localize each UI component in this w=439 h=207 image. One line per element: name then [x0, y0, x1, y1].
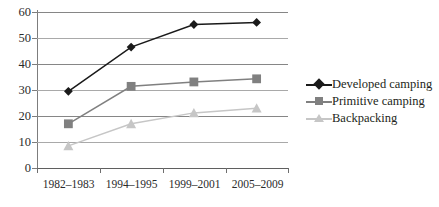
- diamond-marker-icon: [189, 20, 198, 29]
- line-chart: 60 50 40 30 20 10 0 1982–1983 1994–1995 …: [0, 0, 439, 207]
- x-axis-tick: [288, 168, 289, 173]
- triangle-marker-icon: [63, 141, 73, 150]
- y-tick-label: 50: [1, 32, 31, 45]
- series-line: [68, 108, 256, 146]
- y-tick-label: 40: [1, 58, 31, 71]
- square-marker-icon: [64, 119, 73, 128]
- legend-item-developed-camping: Developed camping: [306, 76, 439, 93]
- y-axis-labels: 60 50 40 30 20 10 0: [0, 0, 31, 207]
- square-marker-icon: [189, 78, 198, 87]
- x-axis-tick: [37, 168, 38, 173]
- x-tick-label: 1994–1995: [100, 178, 163, 190]
- square-marker-icon: [252, 74, 261, 83]
- legend-label: Primitive camping: [332, 95, 425, 108]
- legend-item-backpacking: Backpacking: [306, 110, 439, 127]
- square-marker-icon: [127, 82, 136, 91]
- square-marker-icon: [315, 97, 323, 105]
- series-plot: [37, 12, 288, 168]
- x-tick-label: 1982–1983: [37, 178, 100, 190]
- legend-label: Developed camping: [332, 78, 432, 91]
- x-tick-label: 2005–2009: [226, 178, 289, 190]
- series-primitive-camping: [64, 74, 261, 128]
- y-tick-label: 60: [1, 6, 31, 19]
- legend-key-backpacking: [306, 110, 332, 127]
- y-tick-label: 0: [1, 162, 31, 175]
- legend-item-primitive-camping: Primitive camping: [306, 93, 439, 110]
- series-line: [68, 79, 256, 124]
- chart-legend: Developed camping Primitive camping Back…: [306, 76, 439, 127]
- x-axis-tick: [226, 168, 227, 173]
- plot-area: [37, 12, 288, 168]
- x-axis-tick: [100, 168, 101, 173]
- series-backpacking: [63, 103, 261, 150]
- legend-key-developed-camping: [306, 76, 332, 93]
- legend-label: Backpacking: [332, 112, 397, 125]
- x-tick-label: 1999–2001: [163, 178, 226, 190]
- y-tick-label: 30: [1, 84, 31, 97]
- y-tick-label: 10: [1, 136, 31, 149]
- diamond-marker-icon: [313, 78, 324, 89]
- x-axis-tick: [163, 168, 164, 173]
- diamond-marker-icon: [252, 18, 261, 27]
- triangle-marker-icon: [314, 114, 324, 122]
- legend-key-primitive-camping: [306, 93, 332, 110]
- y-tick-label: 20: [1, 110, 31, 123]
